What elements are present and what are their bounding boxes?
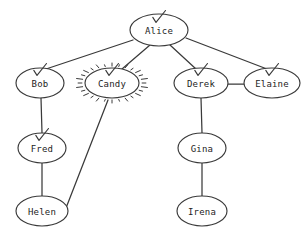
node-label: Bob [32,79,49,89]
graph-svg: AliceBobCandyDerekElaineFredGinaHelenIre… [0,0,308,236]
starburst-ray [76,87,83,88]
graph-node-candy[interactable]: Candy [85,64,139,99]
graph-node-elaine[interactable]: Elaine [244,64,300,99]
graph-node-gina[interactable]: Gina [178,133,226,163]
node-label: Helen [28,207,56,217]
node-label: Fred [31,144,53,154]
node-label: Elaine [255,79,289,89]
graph-node-helen[interactable]: Helen [16,196,68,226]
node-label: Gina [191,144,213,154]
graph-edge [170,45,196,69]
graph-edge [122,45,150,69]
node-label: Candy [98,79,126,89]
starburst-ray [141,87,148,88]
starburst-ray [141,78,148,79]
graph-edge [66,100,108,208]
edges-layer [41,38,267,208]
graph-node-bob[interactable]: Bob [16,64,64,99]
graph-node-derek[interactable]: Derek [174,64,228,99]
starburst-ray [135,70,140,72]
starburst-ray [81,75,85,76]
starburst-ray [83,93,88,95]
starburst-ray [104,64,105,66]
starburst-ray [96,65,99,69]
starburst-ray [83,70,88,72]
graph-edge [186,38,267,69]
starburst-ray [131,68,134,70]
diagram-canvas: AliceBobCandyDerekElaineFredGinaHelenIre… [0,0,308,236]
node-label: Derek [187,79,215,89]
graph-edge [41,98,42,133]
starburst-ray [125,98,128,102]
starburst-ray [91,68,94,70]
starburst-ray [131,96,134,98]
starburst-ray [96,98,99,102]
starburst-ray [119,99,120,101]
starburst-ray [104,99,105,101]
graph-node-irena[interactable]: Irena [177,196,227,226]
starburst-ray [139,75,143,76]
graph-node-fred[interactable]: Fred [18,129,66,164]
graph-edge [201,98,202,133]
node-label: Alice [145,26,173,36]
starburst-ray [119,64,120,66]
nodes-layer: AliceBobCandyDerekElaineFredGinaHelenIre… [16,11,300,227]
starburst-ray [139,90,143,91]
starburst-ray [81,90,85,91]
graph-node-alice[interactable]: Alice [130,11,188,47]
starburst-ray [91,96,94,98]
starburst-ray [76,78,83,79]
starburst-ray [135,93,140,95]
node-label: Irena [188,207,216,217]
